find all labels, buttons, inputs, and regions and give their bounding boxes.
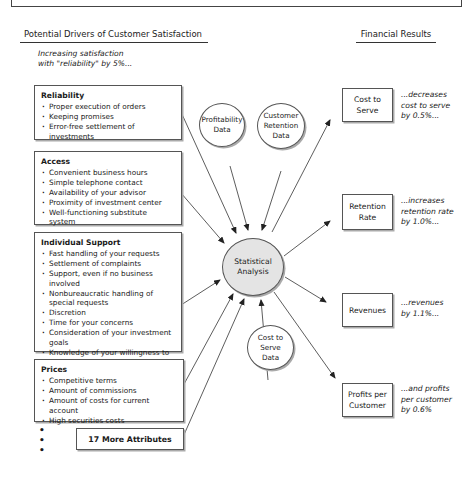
effect-line: ...and profits: [401, 384, 452, 395]
circle-label-line: Profitability: [202, 115, 243, 125]
center-label-line: Statistical: [234, 257, 272, 267]
result-label-line: Revenues: [349, 305, 386, 316]
result-label-line: Cost to: [354, 94, 381, 105]
effect-line: ...increases: [401, 196, 454, 207]
circle-label-line: Customer: [264, 111, 299, 121]
result-label-line: Serve: [354, 105, 381, 116]
result-box-profits-per-customer: Profits per Customer: [342, 383, 393, 417]
dot: •: [39, 445, 45, 455]
driver-title: Access: [41, 157, 175, 167]
driver-box-reliability: Reliability Proper execution of orders K…: [34, 85, 182, 140]
customer-retention-data-circle: Customer Retention Data: [257, 103, 305, 149]
driver-title: Individual Support: [41, 238, 175, 248]
effect-line: by 0.5%...: [401, 111, 450, 122]
effect-line: ...revenues: [401, 298, 443, 309]
effect-line: by 0.6%: [401, 405, 452, 416]
ellipsis-dots: • • •: [39, 425, 45, 455]
effect-cost-to-serve: ...decreases cost to serve by 0.5%...: [401, 90, 450, 122]
result-box-revenues: Revenues: [342, 293, 393, 327]
driver-item: Error-free settlement of investments: [41, 122, 175, 142]
driver-title: Reliability: [41, 91, 175, 101]
driver-item: Amount of costs for current account: [41, 396, 177, 416]
driver-item: High securities costs: [41, 416, 177, 426]
driver-item: Simple telephone contact: [41, 178, 175, 188]
effect-line: by 1.1%...: [401, 309, 443, 320]
effect-retention-rate: ...increases retention rate by 1.0%...: [401, 196, 454, 228]
driver-item: Proximity of investment center: [41, 198, 175, 208]
driver-item: Convenient business hours: [41, 168, 175, 178]
result-label-line: Customer: [348, 400, 387, 411]
profitability-data-circle: Profitability Data: [199, 103, 245, 147]
result-box-cost-to-serve: Cost to Serve: [342, 88, 393, 122]
effect-line: per customer: [401, 395, 452, 406]
circle-label-line: Data: [258, 353, 283, 363]
cost-to-serve-data-circle: Cost to Serve Data: [247, 325, 294, 370]
center-label-line: Analysis: [234, 267, 272, 277]
driver-item: Support, even if no business involved: [41, 269, 175, 289]
circle-label-line: Serve: [258, 343, 283, 353]
circle-label-line: Cost to: [258, 333, 283, 343]
result-label-line: Retention: [349, 201, 386, 212]
statistical-analysis-circle: Statistical Analysis: [222, 238, 284, 296]
driver-item: Fast handling of your requests: [41, 249, 175, 259]
driver-box-access: Access Convenient business hours Simple …: [34, 151, 182, 225]
effect-profits-per-customer: ...and profits per customer by 0.6%: [401, 384, 452, 416]
effect-line: ...decreases: [401, 90, 450, 101]
circle-label-line: Data: [264, 131, 299, 141]
more-attributes-box: 17 More Attributes: [76, 428, 184, 450]
driver-box-prices: Prices Competitive terms Amount of commi…: [34, 359, 184, 422]
driver-item: Competitive terms: [41, 376, 177, 386]
effect-line: by 1.0%...: [401, 217, 454, 228]
circle-label-line: Retention: [264, 121, 299, 131]
driver-title: Prices: [41, 365, 177, 375]
driver-item: Consideration of your investment goals: [41, 328, 175, 348]
driver-item: Time for your concerns: [41, 318, 175, 328]
driver-item: Availability of your advisor: [41, 188, 175, 198]
effect-line: cost to serve: [401, 101, 450, 112]
driver-item: Amount of commissions: [41, 386, 177, 396]
circle-label-line: Data: [202, 125, 243, 135]
driver-item: Settlement of complaints: [41, 259, 175, 269]
driver-item: Proper execution of orders: [41, 102, 175, 112]
result-box-retention-rate: Retention Rate: [342, 194, 393, 230]
effect-revenues: ...revenues by 1.1%...: [401, 298, 443, 319]
dot: •: [39, 425, 45, 435]
driver-item: Nonbureaucratic handling of special requ…: [41, 289, 175, 309]
driver-item: Well-functioning substitute system: [41, 208, 175, 228]
dot: •: [39, 435, 45, 445]
effect-line: retention rate: [401, 207, 454, 218]
result-label-line: Profits per: [348, 389, 387, 400]
driver-item: Keeping promises: [41, 112, 175, 122]
driver-box-individual-support: Individual Support Fast handling of your…: [34, 232, 182, 352]
result-label-line: Rate: [349, 212, 386, 223]
driver-item: Discretion: [41, 308, 175, 318]
